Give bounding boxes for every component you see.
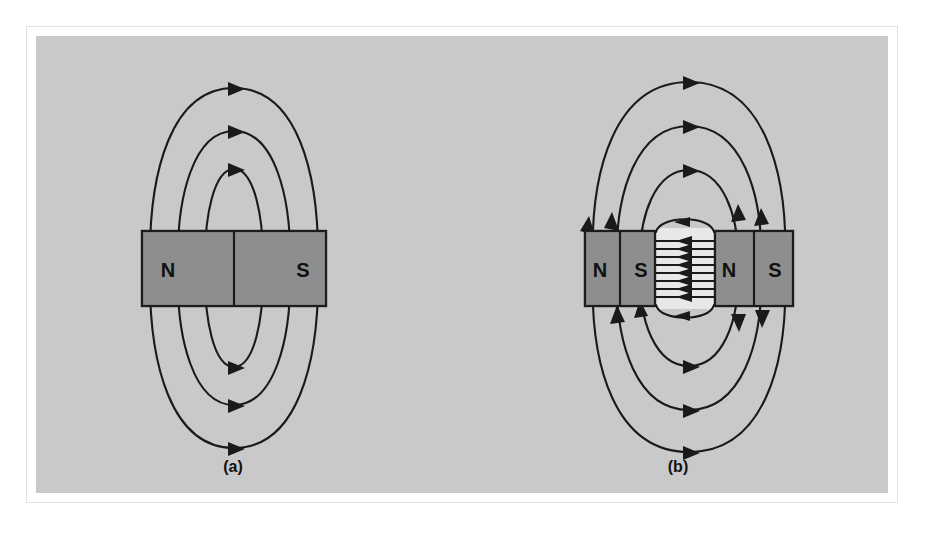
arrowhead-a-middle-top — [228, 125, 245, 139]
panel-b-magnet-right: N S — [709, 231, 800, 306]
arrowhead-b-left-lower-in — [604, 212, 619, 231]
arrowhead-b-left-upper-out — [610, 305, 625, 324]
arrowhead-b-middle-top — [683, 120, 700, 134]
arrowhead-a-middle-bottom — [228, 399, 245, 413]
arrowhead-b-inner-top — [683, 164, 700, 178]
arrowhead-b-inner-bottom — [683, 360, 700, 374]
panel-b: N S N S — [579, 76, 800, 475]
arrowhead-a-outer-bottom — [228, 442, 245, 456]
arrowhead-a-inner-top — [228, 163, 245, 177]
pole-label-a-south: S — [296, 259, 309, 281]
arrowhead-b-right-upper2 — [754, 208, 769, 226]
panel-a-magnet: N S — [136, 231, 334, 306]
pole-label-a-north: N — [161, 259, 175, 281]
figure-root: N S (a) — [0, 0, 925, 533]
caption-panel-a: (a) — [223, 458, 243, 475]
arrowhead-b-right-upper — [731, 204, 746, 222]
pole-label-b-left-north: N — [593, 259, 607, 281]
arrowhead-b-middle-bottom — [683, 404, 700, 418]
pole-label-b-left-south: S — [634, 259, 647, 281]
pole-label-b-right-south: S — [768, 259, 781, 281]
caption-panel-b: (b) — [668, 458, 688, 475]
panel-b-magnet-left: N S — [579, 231, 662, 306]
arrowhead-b-right-lower — [731, 314, 746, 332]
arrowhead-a-outer-top — [228, 82, 245, 96]
pole-label-b-right-north: N — [722, 259, 736, 281]
gap-arrowhead-fringe-bottom — [674, 311, 690, 321]
arrowhead-b-outer-top — [683, 76, 700, 90]
magnetic-field-diagram: N S (a) — [0, 0, 925, 533]
panel-a: N S (a) — [136, 82, 334, 475]
panel-b-air-gap — [655, 217, 715, 321]
